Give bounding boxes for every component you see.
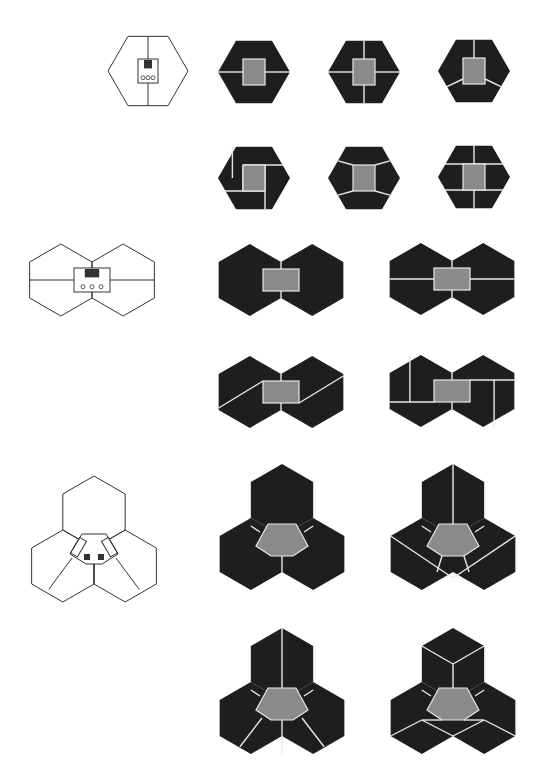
core-block <box>463 58 485 84</box>
core-block <box>434 380 470 402</box>
core-block <box>263 381 299 403</box>
hexagon-plan-diagram <box>0 0 550 772</box>
single-hex-variant-3 <box>438 40 510 102</box>
core-block <box>353 59 375 85</box>
triple-hex-variant-4 <box>391 628 516 754</box>
plan-triple-hexagon <box>32 476 157 602</box>
core-block <box>243 165 265 191</box>
triple-hex-variant-3 <box>220 628 345 754</box>
core-block <box>463 164 485 190</box>
core-block <box>434 268 470 290</box>
single-hex-variant-1 <box>218 41 290 103</box>
plan-double-hexagon <box>30 244 155 316</box>
triple-hex-variant-2 <box>391 464 516 590</box>
core-block <box>353 165 375 191</box>
single-hex-variant-5 <box>328 147 400 209</box>
core-block <box>263 269 299 291</box>
core-block <box>243 59 265 85</box>
plan-single-hexagon <box>108 36 188 105</box>
single-hex-variant-2 <box>328 41 400 103</box>
single-hex-variant-4 <box>218 147 290 209</box>
double-hex-variant-4 <box>390 355 515 427</box>
double-hex-variant-1 <box>219 244 344 316</box>
single-hex-variant-6 <box>438 146 510 208</box>
double-hex-variant-2 <box>390 243 515 315</box>
triple-hex-variant-1 <box>220 464 345 590</box>
double-hex-variant-3 <box>219 356 344 428</box>
